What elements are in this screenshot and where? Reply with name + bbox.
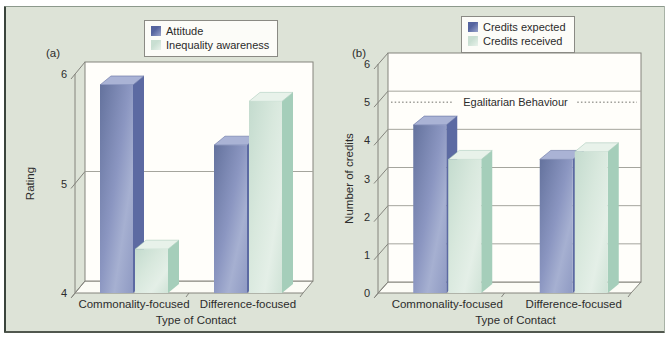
legend-item: Credits received <box>468 34 566 48</box>
bar-front-face <box>575 152 608 293</box>
bar-credits-received-0 <box>448 150 492 293</box>
y-tick <box>374 129 388 145</box>
legend-chart-b: Credits expectedCredits received <box>461 16 575 53</box>
y-axis-title: Number of credits <box>343 133 355 224</box>
chart-a: 456Commonality-focusedDifference-focused… <box>24 62 313 326</box>
y-tick <box>374 53 388 69</box>
y-tick-label: 5 <box>61 178 67 190</box>
reference-line-label: Egalitarian Behaviour <box>463 96 568 108</box>
y-tick-label: 5 <box>364 96 370 108</box>
bar-inequality-awareness-1 <box>249 92 293 293</box>
bar-front-face <box>448 159 481 293</box>
legend-label: Credits received <box>483 34 562 48</box>
bar-inequality-awareness-0 <box>135 240 179 293</box>
chart-b: 0123456Egalitarian BehaviourCommonality-… <box>343 53 641 326</box>
panel-label-b: (b) <box>352 47 366 59</box>
legend-label: Attitude <box>166 24 203 38</box>
y-tick-label: 1 <box>364 249 370 261</box>
blue-series-swatch-icon <box>468 22 478 32</box>
bar-credits-received-1 <box>575 143 619 293</box>
panel-label-a: (a) <box>46 47 60 59</box>
x-tick <box>375 293 378 297</box>
bar-front-face <box>214 145 247 293</box>
y-tick-label: 6 <box>61 68 67 80</box>
x-tick <box>186 293 189 297</box>
bar-front-face <box>413 125 446 293</box>
y-tick-label: 4 <box>364 134 370 146</box>
x-tick <box>72 293 75 297</box>
legend-label: Inequality awareness <box>166 38 269 52</box>
green-series-swatch-icon <box>151 40 161 50</box>
bar-side-face <box>608 143 619 293</box>
category-label: Commonality-focused <box>392 298 503 310</box>
y-tick <box>71 172 85 189</box>
legend-label: Credits expected <box>483 20 566 34</box>
bar-side-face <box>481 150 492 293</box>
y-tick-label: 2 <box>364 211 370 223</box>
category-label: Difference-focused <box>526 298 622 310</box>
y-tick-label: 0 <box>364 287 370 299</box>
bar-front-face <box>135 249 168 293</box>
legend-chart-a: AttitudeInequality awareness <box>144 20 278 57</box>
bar-front-face <box>540 159 573 293</box>
x-axis-title: Type of Contact <box>156 314 237 326</box>
y-axis-title: Rating <box>24 167 36 200</box>
y-tick <box>374 206 388 222</box>
bar-front-face <box>249 101 282 293</box>
y-tick <box>374 244 388 260</box>
green-series-swatch-icon <box>468 36 478 46</box>
figure-page: 456Commonality-focusedDifference-focused… <box>0 0 670 342</box>
y-tick-label: 6 <box>364 58 370 70</box>
y-tick <box>374 91 388 107</box>
x-axis-title: Type of Contact <box>475 314 556 326</box>
bar-side-face <box>168 240 179 293</box>
y-tick <box>71 62 85 79</box>
category-label: Difference-focused <box>200 298 296 310</box>
legend-item: Credits expected <box>468 20 566 34</box>
y-tick-label: 4 <box>61 287 67 299</box>
category-label: Commonality-focused <box>78 298 189 310</box>
bar-side-face <box>282 92 293 293</box>
bar-front-face <box>100 85 133 293</box>
legend-item: Attitude <box>151 24 269 38</box>
x-tick <box>628 293 631 297</box>
x-tick <box>300 293 303 297</box>
x-tick <box>502 293 505 297</box>
y-tick <box>374 168 388 184</box>
legend-item: Inequality awareness <box>151 38 269 52</box>
y-tick-label: 3 <box>364 173 370 185</box>
blue-series-swatch-icon <box>151 26 161 36</box>
